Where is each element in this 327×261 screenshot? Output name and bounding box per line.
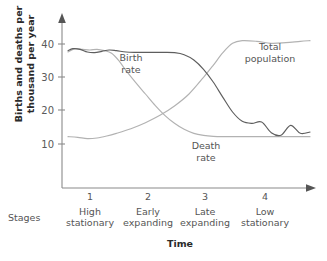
x-axis-title: Time xyxy=(150,238,210,249)
y-tick-label-40: 40 xyxy=(41,39,54,50)
series-label-total-population: Total population xyxy=(238,41,302,64)
stage-column-3: 3 Late expanding xyxy=(174,191,236,229)
series-label-death-rate: Death rate xyxy=(183,140,229,163)
series-label-birth-rate: Birth rate xyxy=(108,52,154,75)
stage-number-4: 4 xyxy=(234,191,296,203)
stage-name-4: Low stationary xyxy=(234,206,296,229)
x-axis-arrowhead xyxy=(306,184,316,192)
y-tick-label-30: 30 xyxy=(41,72,54,83)
stage-number-2: 2 xyxy=(117,191,179,203)
stage-number-1: 1 xyxy=(59,191,121,203)
stages-caption: Stages xyxy=(8,212,56,223)
stage-column-2: 2 Early expanding xyxy=(117,191,179,229)
y-axis-arrowhead xyxy=(58,13,66,23)
stage-number-3: 3 xyxy=(174,191,236,203)
stage-name-3: Late expanding xyxy=(174,206,236,229)
stage-name-2: Early expanding xyxy=(117,206,179,229)
y-tick-label-10: 10 xyxy=(41,139,54,150)
y-axis-title: Births and deaths per thousand per year xyxy=(13,0,37,135)
demographic-transition-chart: 40 30 20 10 Births and deaths per thousa… xyxy=(0,0,327,261)
stage-column-1: 1 High stationary xyxy=(59,191,121,229)
y-tick-label-20: 20 xyxy=(41,105,54,116)
stage-column-4: 4 Low stationary xyxy=(234,191,296,229)
stage-name-1: High stationary xyxy=(59,206,121,229)
